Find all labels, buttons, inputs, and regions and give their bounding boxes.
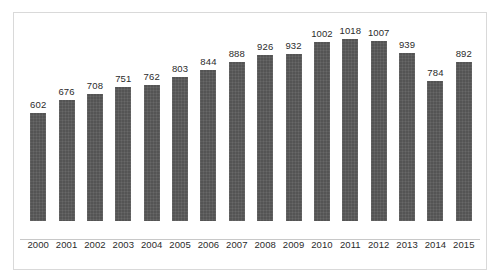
bar-value-label: 932 [285,41,301,51]
plot-area: 6022000676200170820027512003762200480320… [14,13,486,269]
bar[interactable] [257,55,273,221]
bar[interactable] [30,113,46,221]
x-axis-tick-label: 2001 [56,239,78,250]
bar[interactable] [456,62,472,221]
bar-value-label: 1002 [311,29,333,39]
x-axis-tick-label: 2015 [453,239,475,250]
x-axis-tick-label: 2010 [311,239,333,250]
bar[interactable] [399,53,415,221]
bar-group: 10022010 [308,13,336,269]
bar-group: 6022000 [24,13,52,269]
bar-value-label: 751 [115,74,131,84]
bar-value-label: 892 [456,49,472,59]
x-axis-tick-label: 2003 [113,239,135,250]
bar-value-label: 762 [144,72,160,82]
x-axis-tick-label: 2004 [141,239,163,250]
bar[interactable] [314,42,330,221]
x-axis-tick-label: 2000 [27,239,49,250]
x-axis-tick-label: 2006 [198,239,220,250]
bar-value-label: 803 [172,64,188,74]
x-axis-tick-label: 2005 [169,239,191,250]
bar-group: 9322009 [279,13,307,269]
bar-value-label: 676 [58,87,74,97]
bar-group: 7512003 [109,13,137,269]
bar-group: 7082002 [81,13,109,269]
bar-group: 9262008 [251,13,279,269]
bar-value-label: 939 [399,40,415,50]
x-axis-tick-label: 2008 [254,239,276,250]
bar-group: 8882007 [223,13,251,269]
bar-group: 8032005 [166,13,194,269]
bar-group: 7622004 [138,13,166,269]
bar[interactable] [371,41,387,221]
bar[interactable] [115,87,131,221]
x-axis-tick-label: 2014 [425,239,447,250]
bar[interactable] [200,70,216,221]
bar-value-label: 602 [30,100,46,110]
x-axis-tick-label: 2012 [368,239,390,250]
bar[interactable] [229,62,245,221]
bar[interactable] [144,85,160,221]
x-axis-tick-label: 2009 [283,239,305,250]
bar[interactable] [286,54,302,221]
bar-group: 9392013 [393,13,421,269]
bar-group: 7842014 [421,13,449,269]
bar-value-label: 888 [229,49,245,59]
x-axis-tick-label: 2007 [226,239,248,250]
x-axis-tick-label: 2002 [84,239,106,250]
x-axis-tick-label: 2011 [340,239,361,250]
bar-value-label: 844 [200,57,216,67]
x-axis-tick-label: 2013 [396,239,418,250]
bar-group: 6762001 [52,13,80,269]
chart-frame: 6022000676200170820027512003762200480320… [13,12,487,270]
bar[interactable] [172,77,188,221]
bar-group: 10182011 [336,13,364,269]
bar-group: 8922015 [450,13,478,269]
bar[interactable] [427,81,443,221]
bar[interactable] [59,100,75,221]
bar-value-label: 784 [427,68,443,78]
bar[interactable] [87,94,103,221]
bar-group: 8442006 [194,13,222,269]
bar-value-label: 1007 [368,28,390,38]
bar-value-label: 926 [257,42,273,52]
bar-value-label: 708 [87,81,103,91]
bar[interactable] [342,39,358,221]
bar-value-label: 1018 [340,26,362,36]
bar-group: 10072012 [365,13,393,269]
